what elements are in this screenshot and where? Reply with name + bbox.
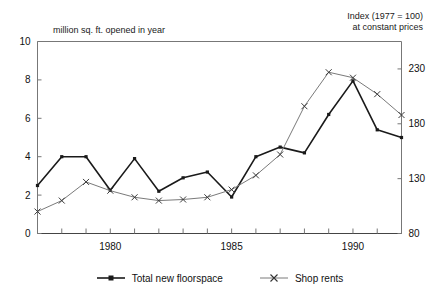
data-point (400, 136, 403, 139)
left-tick-label: 8 (25, 74, 31, 85)
right-tick-label: 230 (409, 63, 426, 74)
plot-area: 024681080130180230198019851990 (0, 0, 439, 305)
x-tick-label: 1985 (221, 241, 244, 252)
data-point (83, 179, 89, 185)
data-point (229, 187, 235, 193)
data-point (279, 146, 282, 149)
data-point (60, 155, 63, 158)
data-point (301, 103, 307, 109)
right-tick-label: 180 (409, 118, 426, 129)
left-tick-label: 4 (25, 151, 31, 162)
data-point (84, 155, 87, 158)
data-point (157, 190, 160, 193)
series-line-1 (38, 72, 402, 211)
data-point (230, 195, 233, 198)
data-point (182, 176, 185, 179)
series-line-0 (38, 81, 402, 197)
x-tick-label: 1990 (342, 241, 365, 252)
legend-label-0: Total new floorspace (132, 273, 223, 284)
data-point (206, 170, 209, 173)
data-point (327, 113, 330, 116)
data-point (59, 198, 65, 204)
chart-legend: Total new floorspace Shop rents (0, 272, 439, 284)
data-point (374, 91, 380, 97)
left-tick-label: 6 (25, 113, 31, 124)
data-point (303, 151, 306, 154)
x-tick-label: 1980 (99, 241, 122, 252)
data-point (36, 184, 39, 187)
data-point (107, 188, 113, 194)
legend-key-cross-icon (259, 272, 289, 284)
legend-item-shop-rents: Shop rents (259, 272, 343, 284)
right-tick-label: 80 (409, 228, 421, 239)
legend-key-square-icon (96, 272, 126, 284)
left-tick-label: 0 (25, 228, 31, 239)
legend-label-1: Shop rents (295, 273, 343, 284)
left-tick-label: 2 (25, 190, 31, 201)
data-point (133, 157, 136, 160)
legend-item-total-new-floorspace: Total new floorspace (96, 272, 223, 284)
data-point (376, 128, 379, 131)
axes-group: 024681080130180230198019851990 (19, 36, 425, 252)
right-tick-label: 130 (409, 173, 426, 184)
series-group (35, 69, 405, 214)
left-tick-label: 10 (19, 36, 31, 47)
data-point (277, 152, 283, 158)
data-point (253, 172, 259, 178)
chart-figure: million sq. ft. opened in year Index (19… (0, 0, 439, 305)
data-point (254, 155, 257, 158)
data-point (351, 79, 354, 82)
